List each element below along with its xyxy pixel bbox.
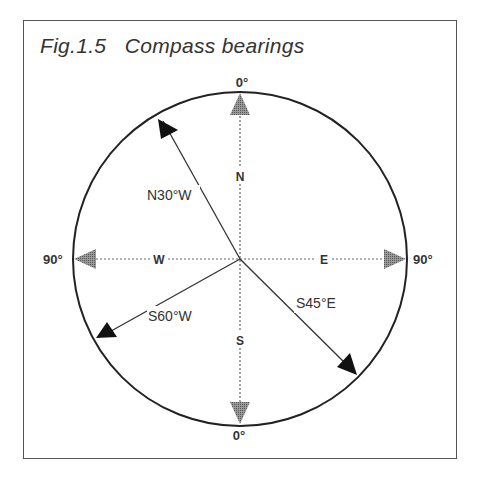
- north-arrowhead-icon: [230, 93, 250, 115]
- compass-diagram: N S W E 0° 0° 90° 90° N30°W S45°E S60°W: [0, 0, 480, 487]
- degree-label-bottom: 0°: [233, 428, 245, 443]
- label-north: N: [236, 170, 245, 184]
- bearing-label-n30w: N30°W: [147, 187, 192, 203]
- label-east: E: [320, 253, 328, 267]
- bearing-s45e-arrowhead-icon: [337, 353, 357, 375]
- degree-label-left: 90°: [43, 252, 63, 267]
- label-west: W: [153, 253, 165, 267]
- east-arrowhead-icon: [384, 249, 406, 269]
- bearing-label-s60w: S60°W: [148, 308, 193, 324]
- bearing-label-s45e: S45°E: [296, 295, 336, 311]
- degree-label-right: 90°: [413, 252, 433, 267]
- degree-label-top: 0°: [236, 75, 248, 90]
- west-arrowhead-icon: [74, 249, 96, 269]
- bearing-n30w-arrowhead-icon: [158, 119, 178, 139]
- label-south: S: [236, 334, 244, 348]
- south-arrowhead-icon: [230, 402, 250, 424]
